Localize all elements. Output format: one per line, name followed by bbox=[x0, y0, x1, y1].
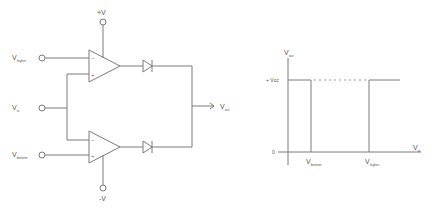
supply-neg-label: -V bbox=[99, 195, 106, 202]
vhigher-label: Vhigher bbox=[12, 54, 27, 63]
supply-pos-terminal bbox=[100, 19, 106, 25]
supply-neg-terminal bbox=[100, 185, 106, 191]
opamp-top: − + +V bbox=[89, 9, 143, 82]
vbottom-label: Vbottom bbox=[12, 151, 27, 160]
transfer-characteristic-chart: Vout Vin + Vcc 0 Vbottom Vhigher bbox=[266, 49, 421, 167]
y-tick-vcc: + Vcc bbox=[266, 77, 279, 83]
vin-label: Vin bbox=[12, 104, 19, 113]
window-comparator-figure: Vhigher Vin Vbottom − + +V bbox=[0, 0, 434, 210]
vhigher-terminal bbox=[39, 55, 45, 61]
vout-label: Vout bbox=[220, 103, 230, 112]
input-vbottom: Vbottom bbox=[12, 151, 89, 160]
input-vin: Vin bbox=[12, 74, 89, 140]
supply-pos-label: +V bbox=[97, 9, 106, 16]
opamp-top-minus: − bbox=[91, 55, 95, 61]
x-tick-vhigher: Vhigher bbox=[365, 158, 380, 167]
opamp-top-plus: + bbox=[91, 72, 95, 78]
y-axis-label: Vout bbox=[284, 49, 294, 58]
opamp-bottom: − + -V bbox=[89, 131, 143, 202]
vout-curve-left bbox=[288, 80, 311, 152]
diode-bottom-icon bbox=[143, 141, 192, 153]
vbottom-terminal bbox=[39, 152, 45, 158]
x-tick-vbottom: Vbottom bbox=[306, 158, 321, 167]
output-vout: Vout bbox=[192, 103, 230, 112]
opamp-bottom-minus: − bbox=[91, 137, 95, 143]
circuit-schematic: Vhigher Vin Vbottom − + +V bbox=[12, 9, 230, 202]
diode-top-icon bbox=[143, 60, 192, 147]
y-tick-zero: 0 bbox=[272, 149, 275, 155]
input-vhigher: Vhigher bbox=[12, 54, 89, 63]
vin-terminal bbox=[39, 105, 45, 111]
vout-curve-right bbox=[369, 80, 400, 152]
opamp-bottom-plus: + bbox=[91, 153, 95, 159]
